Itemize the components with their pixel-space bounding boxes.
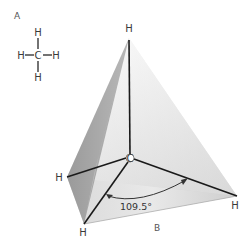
panel-b-label: B — [154, 223, 160, 233]
formula-h-top: H — [34, 27, 42, 38]
bond-top — [129, 40, 130, 154]
tetra-c-label: C — [127, 153, 134, 164]
panel-a-label: A — [14, 11, 21, 21]
tetra-h-left: H — [55, 172, 63, 183]
bond-angle-label: 109.5° — [120, 201, 152, 212]
tetra-h-top: H — [125, 23, 133, 34]
formula-h-left: H — [17, 50, 25, 61]
tetra-h-right: H — [231, 200, 239, 211]
structural-formula: H C H H H — [17, 27, 60, 83]
tetra-h-front: H — [79, 227, 87, 238]
methane-diagram: A H C H H H C 109.5° — [0, 0, 251, 250]
tetrahedron: C 109.5° H H H H — [55, 23, 239, 238]
formula-h-right: H — [52, 50, 60, 61]
formula-h-bottom: H — [34, 72, 42, 83]
formula-c: C — [35, 50, 42, 61]
